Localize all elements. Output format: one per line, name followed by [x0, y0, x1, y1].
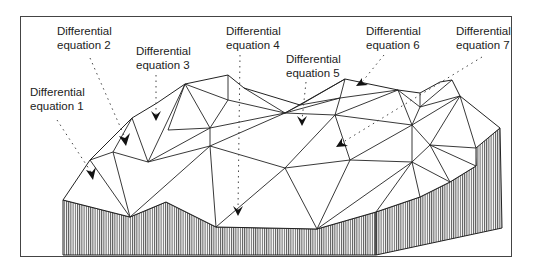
label-eq3-line2: equation 3: [136, 58, 191, 72]
label-eq5-line2: equation 5: [286, 66, 341, 80]
label-eq4-line1: Differential: [226, 24, 281, 38]
label-eq1-line1: Differential: [30, 85, 85, 99]
label-eq6-line2: equation 6: [366, 38, 421, 52]
label-eq7: Differential equation 7: [456, 24, 511, 52]
label-eq5: Differential equation 5: [286, 52, 341, 80]
pointer-eq6: [362, 55, 384, 82]
label-eq3-line1: Differential: [136, 44, 191, 58]
label-eq6-line1: Differential: [366, 24, 421, 38]
label-eq1: Differential equation 1: [30, 85, 85, 113]
label-eq6: Differential equation 6: [366, 24, 421, 52]
label-eq7-line2: equation 7: [456, 38, 511, 52]
label-eq4-line2: equation 4: [226, 38, 281, 52]
label-eq1-line2: equation 1: [30, 99, 85, 113]
label-eq4: Differential equation 4: [226, 24, 281, 52]
label-eq2-line1: Differential: [57, 24, 112, 38]
label-eq3: Differential equation 3: [136, 44, 191, 72]
label-eq5-line1: Differential: [286, 52, 341, 66]
label-eq2: Differential equation 2: [57, 24, 112, 52]
pointer-eq2: [90, 58, 126, 140]
label-eq2-line2: equation 2: [57, 38, 112, 52]
label-eq7-line1: Differential: [456, 24, 511, 38]
pointer-eq1: [57, 120, 93, 175]
